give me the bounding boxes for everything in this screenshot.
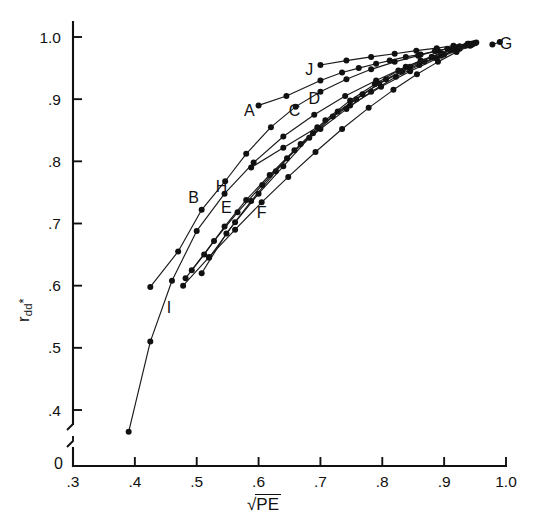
series-label-E: E: [221, 199, 232, 216]
series-label-J: J: [305, 61, 313, 78]
sqrt-symbol: √PE: [247, 494, 281, 515]
data-point: [243, 151, 249, 157]
data-point: [454, 48, 460, 54]
tick-label-layer: .4.5.6.7.8.91.0.3.4.5.6.7.8.91.00: [39, 29, 517, 491]
series-line: [150, 44, 469, 287]
data-point: [414, 71, 420, 77]
data-point: [368, 66, 374, 72]
data-point: [147, 284, 153, 290]
data-point: [248, 165, 254, 171]
data-point: [206, 254, 212, 260]
radicand-text: PE: [255, 494, 281, 515]
data-point: [126, 429, 132, 435]
data-point: [373, 78, 379, 84]
x-tick-label-.8: .8: [376, 473, 389, 490]
series-label-D: D: [308, 90, 320, 107]
data-point: [147, 339, 153, 345]
data-point: [199, 270, 205, 276]
y-axis-title: rdd*: [14, 270, 34, 350]
data-point: [390, 87, 396, 93]
y-tick-label-.8: .8: [48, 153, 61, 170]
y-tick-label-.9: .9: [48, 91, 61, 108]
data-point: [343, 76, 349, 82]
data-point: [392, 59, 398, 65]
series-line: [183, 46, 470, 286]
data-point: [235, 209, 241, 215]
data-point: [378, 84, 384, 90]
data-point: [175, 248, 181, 254]
data-point: [342, 93, 348, 99]
data-point: [268, 124, 274, 130]
y-axis-title-base: r: [14, 316, 33, 322]
data-point: [284, 155, 290, 161]
series-line: [192, 43, 475, 270]
data-point: [450, 43, 456, 49]
y-tick-label-.5: .5: [48, 339, 61, 356]
data-point: [312, 149, 318, 155]
series-A: [256, 40, 477, 108]
data-point: [339, 69, 345, 75]
data-point: [180, 283, 186, 289]
data-point: [434, 45, 440, 51]
series-F: [180, 43, 473, 289]
data-point: [259, 182, 265, 188]
data-point: [347, 102, 353, 108]
data-point: [356, 65, 362, 71]
series-label-layer: ABCDEFGHIJ: [167, 35, 513, 316]
data-point: [314, 124, 320, 130]
data-point: [280, 145, 286, 151]
data-point: [256, 102, 262, 108]
axis-break-mark: [67, 418, 73, 447]
y-tick-label-1.0: 1.0: [39, 29, 61, 46]
series-line: [186, 44, 472, 278]
data-point: [403, 64, 409, 70]
data-point: [211, 238, 217, 244]
series-D: [199, 41, 475, 276]
x-tick-label-.7: .7: [314, 473, 327, 490]
data-point: [489, 41, 495, 47]
series-I: [126, 41, 473, 434]
y-axis-title-sup: *: [16, 298, 31, 303]
series-label-F: F: [257, 204, 267, 221]
y-tick-label-.6: .6: [48, 277, 61, 294]
data-point: [373, 61, 379, 67]
x-tick-label-.6: .6: [252, 473, 265, 490]
data-point: [368, 54, 374, 60]
data-point: [291, 147, 297, 153]
origin-label: 0: [54, 455, 63, 472]
x-axis-title: √PE: [247, 494, 281, 515]
x-tick-label-.9: .9: [438, 473, 451, 490]
data-point: [280, 133, 286, 139]
data-point: [407, 68, 413, 74]
x-tick-label-.3: .3: [67, 473, 80, 490]
y-tick-label-.7: .7: [48, 215, 61, 232]
x-tick-label-.4: .4: [128, 473, 141, 490]
series-label-H: H: [216, 178, 228, 195]
data-point: [283, 93, 289, 99]
data-point: [317, 78, 323, 84]
data-point: [199, 207, 205, 213]
chart-canvas: .4.5.6.7.8.91.0.3.4.5.6.7.8.91.00 ABCDEF…: [0, 0, 533, 532]
axis-layer: [67, 22, 506, 466]
series-label-I: I: [167, 299, 171, 316]
data-point: [285, 174, 291, 180]
series-label-B: B: [188, 189, 199, 206]
x-tick-label-.5: .5: [190, 473, 203, 490]
x-tick-label-1.0: 1.0: [495, 473, 517, 490]
y-tick-label-.4: .4: [48, 402, 61, 419]
data-point: [311, 112, 317, 118]
y-axis-title-sub: dd: [22, 303, 34, 316]
data-point: [317, 62, 323, 68]
data-point: [366, 105, 372, 111]
data-point: [434, 56, 440, 62]
data-point: [413, 48, 419, 54]
figure-root: .4.5.6.7.8.91.0.3.4.5.6.7.8.91.00 ABCDEF…: [0, 0, 533, 532]
data-point: [469, 41, 475, 47]
data-point: [194, 228, 200, 234]
data-point: [232, 227, 238, 233]
data-point: [343, 58, 349, 64]
data-point: [169, 278, 175, 284]
data-point: [339, 126, 345, 132]
data-point: [223, 230, 229, 236]
data-point: [392, 51, 398, 57]
